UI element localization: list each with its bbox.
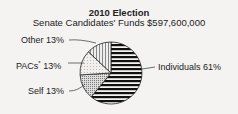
label-pacs: PACs* 13%: [16, 58, 61, 71]
label-individuals: Individuals 61%: [158, 62, 221, 72]
label-other: Other 13%: [21, 35, 64, 45]
pie-chart: [0, 0, 238, 114]
label-pacs-pct: 13%: [41, 61, 62, 71]
label-pacs-text: PACs: [16, 61, 38, 71]
label-self: Self 13%: [28, 86, 64, 96]
